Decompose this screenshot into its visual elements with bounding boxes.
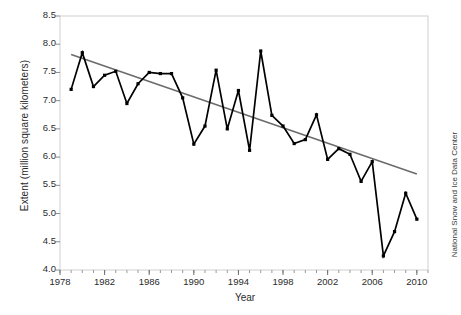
x-tick-label: 2002 bbox=[308, 276, 348, 287]
plot-canvas bbox=[0, 0, 461, 315]
data-point-marker bbox=[125, 102, 128, 105]
data-point-marker bbox=[404, 192, 407, 195]
x-tick-label: 1998 bbox=[263, 276, 303, 287]
data-point-marker bbox=[281, 124, 284, 127]
y-tick-label: 4.5 bbox=[16, 236, 56, 246]
x-tick-label: 1982 bbox=[85, 276, 125, 287]
data-point-marker bbox=[92, 85, 95, 88]
data-point-marker bbox=[81, 51, 84, 54]
y-tick-label: 8.5 bbox=[16, 10, 56, 20]
data-point-marker bbox=[359, 180, 362, 183]
data-point-marker bbox=[337, 147, 340, 150]
data-point-marker bbox=[159, 72, 162, 75]
data-point-marker bbox=[415, 218, 418, 221]
data-point-marker bbox=[136, 82, 139, 85]
data-point-marker bbox=[382, 254, 385, 257]
data-point-marker bbox=[393, 230, 396, 233]
data-point-marker bbox=[259, 49, 262, 52]
x-tick-label: 2006 bbox=[352, 276, 392, 287]
y-tick-label: 4.0 bbox=[16, 264, 56, 274]
data-point-marker bbox=[203, 124, 206, 127]
data-point-marker bbox=[248, 149, 251, 152]
data-source-credit: National Snow and Ice Data Center bbox=[450, 110, 459, 280]
data-point-marker bbox=[348, 153, 351, 156]
x-tick-label: 1978 bbox=[40, 276, 80, 287]
data-point-marker bbox=[226, 127, 229, 130]
data-point-marker bbox=[114, 70, 117, 73]
data-point-marker bbox=[293, 142, 296, 145]
plot-area-border bbox=[60, 16, 428, 270]
data-point-marker bbox=[170, 72, 173, 75]
data-point-marker bbox=[70, 88, 73, 91]
sea-ice-extent-chart: Extent (million square kilometers) Year … bbox=[0, 0, 461, 315]
x-tick-label: 1990 bbox=[174, 276, 214, 287]
y-tick-label: 8.0 bbox=[16, 38, 56, 48]
y-tick-label: 5.5 bbox=[16, 179, 56, 189]
x-tick-label: 2010 bbox=[397, 276, 437, 287]
data-point-marker bbox=[192, 143, 195, 146]
data-point-marker bbox=[215, 69, 218, 72]
y-tick-label: 7.0 bbox=[16, 95, 56, 105]
data-point-marker bbox=[181, 96, 184, 99]
x-tick-label: 1986 bbox=[129, 276, 169, 287]
x-tick-label: 1994 bbox=[218, 276, 258, 287]
y-tick-label: 6.0 bbox=[16, 151, 56, 161]
x-axis-title: Year bbox=[60, 292, 430, 303]
data-point-marker bbox=[270, 114, 273, 117]
y-tick-label: 7.5 bbox=[16, 66, 56, 76]
data-point-marker bbox=[371, 160, 374, 163]
y-axis-tick-labels: 4.04.55.05.56.06.57.07.58.08.5 bbox=[10, 0, 56, 315]
data-point-marker bbox=[103, 74, 106, 77]
y-tick-label: 5.0 bbox=[16, 208, 56, 218]
y-tick-label: 6.5 bbox=[16, 123, 56, 133]
data-point-marker bbox=[148, 71, 151, 74]
data-point-marker bbox=[304, 138, 307, 141]
data-point-marker bbox=[237, 89, 240, 92]
data-point-marker bbox=[315, 113, 318, 116]
data-point-marker bbox=[326, 158, 329, 161]
